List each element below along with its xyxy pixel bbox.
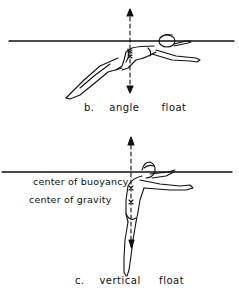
- caption-word-float: float: [162, 102, 187, 113]
- arrow-up-icon: [128, 137, 134, 145]
- arrow-up-icon: [127, 9, 133, 16]
- caption-word-float: float: [159, 275, 184, 286]
- caption-word-vertical: vertical: [99, 275, 140, 286]
- arrow-down-icon: [127, 86, 133, 93]
- caption-word-angle: angle: [109, 102, 139, 113]
- vertical-float-figure: [2, 137, 232, 276]
- caption-letter-b: b.: [84, 102, 95, 113]
- label-center-of-buoyancy: center of buoyancy: [33, 176, 129, 187]
- caption-vertical-float: c. vertical float: [75, 275, 184, 286]
- caption-letter-c: c.: [75, 275, 85, 286]
- angle-float-figure: [9, 9, 234, 99]
- float-diagram: [0, 0, 239, 290]
- caption-angle-float: b. angle float: [84, 102, 187, 113]
- label-center-of-gravity: center of gravity: [29, 194, 112, 205]
